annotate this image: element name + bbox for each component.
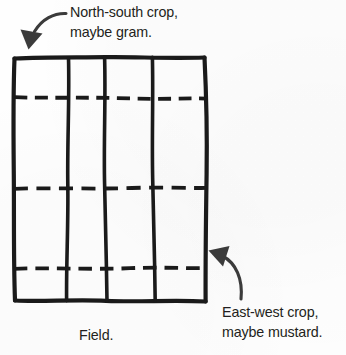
curved-arrow-up-left-icon [209, 246, 242, 299]
field-vertical-lines [67, 57, 156, 301]
curved-arrow-down-left-icon [21, 13, 67, 49]
figure-root: North-south crop, maybe gram. East-west … [0, 0, 346, 355]
field-dashed-lines [14, 97, 206, 269]
annotation-north-south-line-1: North-south crop, [70, 3, 178, 23]
annotation-east-west-line-1: East-west crop, [222, 303, 322, 323]
figure-caption: Field. [79, 326, 113, 346]
annotation-north-south-line-2: maybe gram. [70, 23, 178, 43]
field-diagram [0, 0, 346, 355]
annotation-east-west-crop: East-west crop, maybe mustard. [222, 303, 322, 342]
field-outline [13, 57, 206, 301]
annotation-east-west-line-2: maybe mustard. [222, 323, 322, 343]
annotation-north-south-crop: North-south crop, maybe gram. [70, 3, 178, 42]
